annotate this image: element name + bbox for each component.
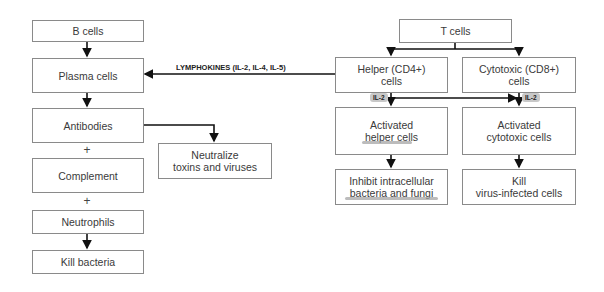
- kill-bacteria-box: Kill bacteria: [32, 250, 144, 274]
- il2-right-badge: IL-2: [522, 93, 540, 102]
- antibodies-box: Antibodies: [32, 108, 144, 143]
- cytotoxic-line2: cells: [508, 75, 529, 87]
- helper-line1: Helper (CD4+): [358, 63, 426, 75]
- kill-bacteria-label: Kill bacteria: [61, 256, 115, 268]
- cytotoxic-line1: Cytotoxic (CD8+): [479, 63, 559, 75]
- activated-cytotoxic-line2: cytotoxic cells: [487, 131, 552, 143]
- cytotoxic-cells-box: Cytotoxic (CD8+) cells: [462, 57, 576, 93]
- helper-cells-box: Helper (CD4+) cells: [335, 57, 448, 93]
- activated-helper-box: Activated helper cells: [335, 107, 448, 155]
- highlight-mark: [345, 197, 438, 200]
- activated-cytotoxic-line1: Activated: [497, 119, 540, 131]
- neutrophils-label: Neutrophils: [61, 216, 114, 228]
- complement-box: Complement: [32, 158, 144, 193]
- helper-line2: cells: [381, 75, 402, 87]
- b-cells-box: B cells: [32, 20, 144, 42]
- neutralize-line1: Neutralize: [191, 149, 238, 161]
- t-cells-label: T cells: [440, 25, 470, 37]
- plus-sign-1: +: [81, 143, 93, 157]
- kill-virus-line2: virus-infected cells: [476, 187, 562, 199]
- activated-cytotoxic-box: Activated cytotoxic cells: [462, 107, 576, 155]
- plasma-cells-label: Plasma cells: [59, 70, 118, 82]
- kill-virus-box: Kill virus-infected cells: [462, 169, 576, 205]
- plus-sign-2: +: [81, 194, 93, 208]
- highlight-mark: [362, 141, 412, 144]
- kill-virus-line1: Kill: [512, 175, 526, 187]
- neutralize-line2: toxins and viruses: [173, 161, 257, 173]
- lymphokines-label: LYMPHOKINES (IL-2, IL-4, IL-5): [176, 63, 286, 72]
- neutrophils-box: Neutrophils: [32, 210, 144, 234]
- complement-label: Complement: [58, 170, 118, 182]
- b-cells-label: B cells: [73, 25, 104, 37]
- neutralize-box: Neutralize toxins and viruses: [158, 143, 272, 179]
- inhibit-line1: Inhibit intracellular: [349, 175, 434, 187]
- t-cells-box: T cells: [399, 19, 512, 43]
- activated-helper-line1: Activated: [370, 119, 413, 131]
- il2-left-badge: IL-2: [370, 93, 388, 102]
- plasma-cells-box: Plasma cells: [32, 58, 144, 93]
- antibodies-label: Antibodies: [63, 120, 112, 132]
